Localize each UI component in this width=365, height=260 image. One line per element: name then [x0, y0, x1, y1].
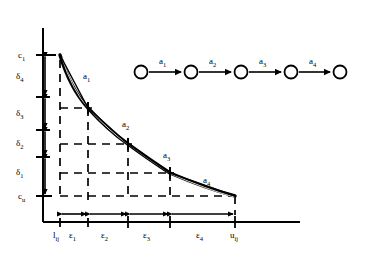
cost-axis-labels: c1 δ4 δ3 δ2 δ1 cu — [16, 50, 26, 203]
chain-node-5 — [334, 66, 347, 79]
label-eps3: ε3 — [143, 230, 150, 242]
label-u-ij: uij — [230, 230, 238, 242]
label-delta4: δ4 — [16, 71, 24, 83]
arc-label-a3: a3 — [259, 56, 266, 68]
label-eps2: ε2 — [101, 230, 108, 242]
chain-node-4 — [285, 66, 298, 79]
chain-node-2 — [185, 66, 198, 79]
label-eps4: ε4 — [196, 230, 204, 242]
label-eps1: ε1 — [69, 230, 76, 242]
cost-function-figure: c1 δ4 δ3 δ2 δ1 cu lij ε1 ε2 ε3 — [0, 0, 365, 260]
flow-axis-labels: lij ε1 ε2 ε3 ε4 uij — [53, 230, 238, 242]
chain-node-3 — [235, 66, 248, 79]
arc-chain-diagram: a1 a2 a3 a4 — [135, 56, 347, 79]
label-cu: cu — [18, 191, 26, 203]
curve-label-a3: a3 — [163, 150, 170, 162]
label-c1: c1 — [18, 50, 25, 62]
cost-axis-ticks — [36, 55, 56, 196]
label-l-ij: lij — [53, 230, 59, 242]
label-delta3: δ3 — [16, 108, 24, 120]
chain-node-1 — [135, 66, 148, 79]
curve-label-a1: a1 — [83, 71, 90, 83]
label-delta2: δ2 — [16, 138, 24, 150]
label-delta1: δ1 — [16, 167, 24, 179]
vertical-grid-lines — [60, 60, 235, 215]
arc-label-a4: a4 — [309, 56, 317, 68]
arc-label-a2: a2 — [209, 56, 216, 68]
curve-breakpoint-ticks — [88, 102, 170, 179]
curve-label-a2: a2 — [122, 119, 129, 131]
curve-segment-labels: a1 a2 a3 a4 — [83, 71, 211, 187]
arc-label-a1: a1 — [159, 56, 166, 68]
